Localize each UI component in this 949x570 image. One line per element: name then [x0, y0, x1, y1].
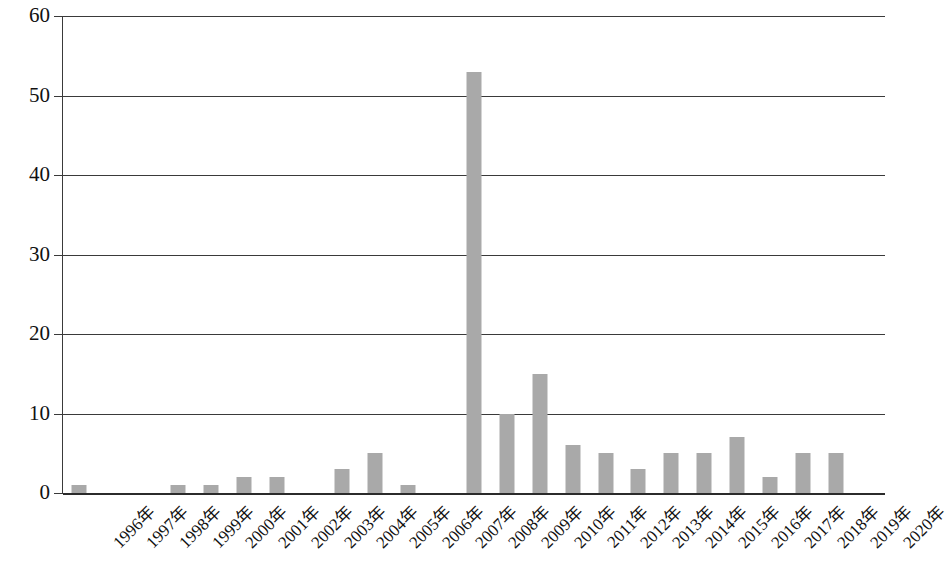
bar-slot	[523, 16, 556, 493]
bar-slot	[326, 16, 359, 493]
bar	[532, 374, 547, 493]
bar	[236, 477, 251, 493]
y-tick-label: 50	[4, 85, 50, 106]
bar	[72, 485, 87, 493]
bar-slot	[819, 16, 852, 493]
y-tick-label: 0	[4, 482, 50, 503]
bar-slot	[622, 16, 655, 493]
bar	[762, 477, 777, 493]
bars-layer	[63, 16, 885, 493]
y-tick-mark-40	[54, 175, 63, 176]
bar-slot	[589, 16, 622, 493]
bar-slot	[96, 16, 129, 493]
bar	[368, 453, 383, 493]
bar	[401, 485, 416, 493]
bar-slot	[392, 16, 425, 493]
bar-slot	[852, 16, 885, 493]
y-tick-label: 20	[4, 323, 50, 344]
y-tick-label: 40	[4, 164, 50, 185]
bar	[598, 453, 613, 493]
bar-slot	[162, 16, 195, 493]
bar-slot	[63, 16, 96, 493]
bar-slot	[688, 16, 721, 493]
x-axis-labels: 1996年1997年1998年1999年2000年2001年2002年2003年…	[63, 493, 885, 570]
bar	[466, 72, 481, 493]
bar-slot	[458, 16, 491, 493]
bar-slot	[129, 16, 162, 493]
y-tick-mark-30	[54, 255, 63, 256]
bar-slot	[260, 16, 293, 493]
bar-slot	[195, 16, 228, 493]
y-tick-label: 30	[4, 244, 50, 265]
bar	[828, 453, 843, 493]
bar	[269, 477, 284, 493]
bar-slot	[359, 16, 392, 493]
bar	[565, 445, 580, 493]
bar-slot	[293, 16, 326, 493]
bar	[631, 469, 646, 493]
bar-slot	[556, 16, 589, 493]
y-tick-label: 60	[4, 5, 50, 26]
bar-slot	[753, 16, 786, 493]
bar	[697, 453, 712, 493]
bar-slot	[227, 16, 260, 493]
bar	[203, 485, 218, 493]
bar	[499, 414, 514, 494]
y-tick-mark-50	[54, 96, 63, 97]
bar	[335, 469, 350, 493]
y-tick-mark-0	[54, 493, 63, 494]
bar	[795, 453, 810, 493]
bar-slot	[655, 16, 688, 493]
bar-slot	[490, 16, 523, 493]
y-tick-label: 10	[4, 403, 50, 424]
bar	[171, 485, 186, 493]
bar	[730, 437, 745, 493]
bar-slot	[786, 16, 819, 493]
y-tick-mark-60	[54, 16, 63, 17]
bar-slot	[721, 16, 754, 493]
bar	[664, 453, 679, 493]
y-tick-mark-20	[54, 334, 63, 335]
y-tick-mark-10	[54, 414, 63, 415]
bar-slot	[425, 16, 458, 493]
y-axis-labels: 0102030405060	[0, 0, 50, 570]
